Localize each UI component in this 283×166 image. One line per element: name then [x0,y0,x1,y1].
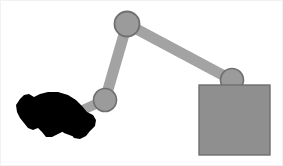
scene-canvas [0,0,283,166]
elbow-joint[interactable] [115,12,140,37]
wrist-joint[interactable] [94,89,117,112]
robot-simulation-view [0,0,283,166]
grasp-target-box[interactable] [199,85,270,155]
